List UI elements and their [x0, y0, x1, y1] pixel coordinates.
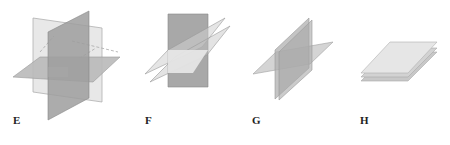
- figure-g: [253, 18, 333, 100]
- planes-diagram: [0, 0, 450, 145]
- figure-h: [361, 42, 437, 81]
- label-e: E: [13, 114, 20, 126]
- label-h: H: [360, 114, 369, 126]
- figure-e: [13, 11, 120, 120]
- figure-f: [145, 14, 230, 87]
- label-g: G: [252, 114, 261, 126]
- label-f: F: [145, 114, 152, 126]
